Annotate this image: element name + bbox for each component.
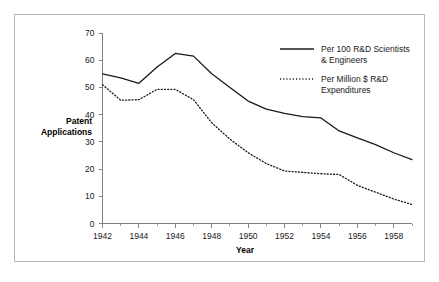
- legend-entry-1-line1: Per Million $ R&D: [321, 74, 388, 84]
- legend-entry-1-line2: Expenditures: [321, 85, 371, 95]
- x-tick-label: 1944: [129, 231, 148, 241]
- y-tick-label: 10: [85, 191, 95, 201]
- legend-entry-0-line1: Per 100 R&D Scientists: [321, 44, 410, 54]
- x-tick-label: 1954: [312, 231, 331, 241]
- y-tick-label: 70: [85, 28, 95, 38]
- legend-entry-0-line2: & Engineers: [321, 55, 367, 65]
- figure-container: 010203040506070 194219441946194819501952…: [0, 0, 439, 282]
- y-axis-title-line1: Patent: [66, 116, 92, 126]
- x-axis-title: Year: [236, 245, 255, 255]
- y-tick-label: 0: [90, 219, 95, 229]
- y-axis-title-line2: Applications: [41, 127, 92, 137]
- line-chart: 010203040506070 194219441946194819501952…: [0, 0, 439, 282]
- y-tick-label: 50: [85, 82, 95, 92]
- series-line-per-100-scientists: [103, 53, 413, 159]
- y-tick-label: 60: [85, 55, 95, 65]
- x-tick-label: 1942: [93, 231, 112, 241]
- x-tick-label: 1948: [202, 231, 221, 241]
- x-tick-label: 1946: [166, 231, 185, 241]
- x-tick-label: 1956: [348, 231, 367, 241]
- y-tick-label: 20: [85, 164, 95, 174]
- x-tick-label: 1952: [275, 231, 294, 241]
- x-tick-label: 1950: [239, 231, 258, 241]
- x-axis-ticks: 194219441946194819501952195419561958: [93, 224, 403, 241]
- series-line-per-million-expenditures: [103, 85, 413, 205]
- y-tick-label: 30: [85, 137, 95, 147]
- x-tick-label: 1958: [384, 231, 403, 241]
- chart-legend: Per 100 R&D Scientists & Engineers Per M…: [280, 44, 410, 95]
